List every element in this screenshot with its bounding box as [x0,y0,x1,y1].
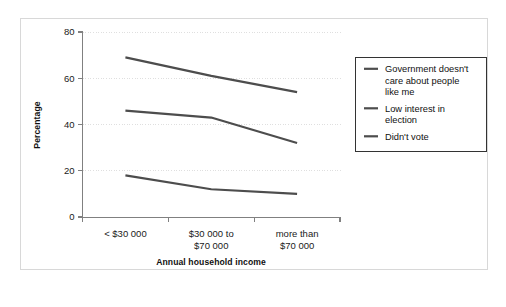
x-category-labels: < $30 000$30 000 to$70 000more than$70 0… [104,228,318,251]
series-line [125,111,297,143]
legend-label: election [385,115,417,125]
chart-legend: Government doesn'tcare about peoplelike … [356,58,487,152]
y-axis-title: Percentage [32,101,42,148]
legend-label: Didn't vote [385,132,429,142]
y-tick-group: 020406080 [64,26,83,222]
chart-figure: 020406080 < $30 000$30 000 to$70 000more… [0,0,506,307]
y-tick-label: 20 [64,165,75,176]
legend-label: like me [385,87,414,97]
gridline-group [83,32,343,171]
y-axis-group: 020406080 [64,26,83,222]
series-group [125,57,297,193]
y-tick-label: 60 [64,73,75,84]
y-tick-label: 0 [69,211,74,222]
series-line [125,57,297,92]
x-tick-label: < $30 000 [104,228,147,239]
x-axis-group [83,217,341,222]
x-tick-label: $70 000 [280,240,314,251]
x-tick-label: more than [276,228,319,239]
y-tick-label: 40 [64,119,75,130]
x-tick-label: $30 000 to [189,228,234,239]
legend-label: Government doesn't [385,64,469,74]
series-line [125,175,297,194]
x-axis-title: Annual household income [156,257,266,267]
y-tick-label: 80 [64,26,75,37]
line-chart-svg: 020406080 < $30 000$30 000 to$70 000more… [0,0,506,307]
legend-label: Low interest in [385,104,445,114]
legend-label: care about people [385,76,459,86]
x-tick-label: $70 000 [194,240,228,251]
